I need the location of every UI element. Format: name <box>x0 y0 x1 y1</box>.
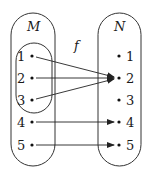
domain-element-label: 3 <box>17 93 25 108</box>
set-m-label: M <box>26 19 41 34</box>
codomain-point <box>117 120 120 123</box>
domain-element-label: 2 <box>17 71 25 86</box>
codomain-element-label: 1 <box>126 49 134 64</box>
domain-point <box>30 120 33 123</box>
codomain-element-label: 2 <box>126 71 134 86</box>
set-n-boundary <box>98 13 141 166</box>
domain-point <box>30 76 33 79</box>
codomain-point <box>117 143 120 146</box>
codomain-elements: 1 2 3 4 5 <box>117 49 134 153</box>
domain-elements: 1 2 3 4 5 <box>17 49 34 153</box>
codomain-point <box>117 54 120 57</box>
codomain-point <box>117 98 120 101</box>
arrow-3-to-2 <box>36 79 114 99</box>
domain-point <box>30 98 33 101</box>
domain-element-label: 1 <box>17 49 25 64</box>
domain-element-label: 4 <box>17 115 25 130</box>
arrow-1-to-2 <box>36 57 114 77</box>
codomain-element-label: 4 <box>126 115 134 130</box>
codomain-element-label: 3 <box>126 93 134 108</box>
function-label: f <box>73 38 81 53</box>
codomain-element-label: 5 <box>126 138 134 153</box>
codomain-point <box>117 76 120 79</box>
mapping-arrows <box>36 57 114 145</box>
mapping-diagram: M N f 1 2 3 4 5 1 2 3 4 5 <box>0 0 151 179</box>
domain-point <box>30 54 33 57</box>
domain-point <box>30 143 33 146</box>
domain-element-label: 5 <box>17 138 25 153</box>
set-n-label: N <box>113 19 126 34</box>
